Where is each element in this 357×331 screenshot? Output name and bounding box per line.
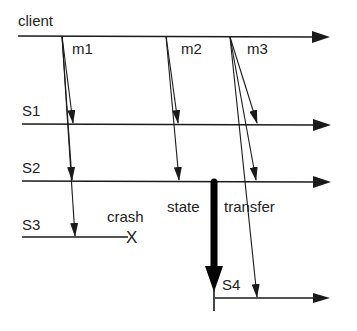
message-label-m2: m2 xyxy=(181,41,202,56)
diagram-canvas: client S1 S2 S3 S4 m1 m2 m3 crash X stat… xyxy=(0,0,357,331)
state-transfer-label-right: transfer xyxy=(224,199,275,214)
process-label-client: client xyxy=(18,13,53,28)
message-m3-arrows xyxy=(230,37,257,297)
diagram-lines xyxy=(0,0,357,331)
message-m1-arrows xyxy=(62,36,75,236)
message-label-m3: m3 xyxy=(247,41,268,56)
message-label-m1: m1 xyxy=(72,41,93,56)
timeline-s2 xyxy=(22,176,331,188)
process-label-s3: S3 xyxy=(22,217,40,232)
message-m2-arrows xyxy=(166,36,179,180)
crash-x-marker: X xyxy=(126,229,137,246)
crash-label: crash xyxy=(107,209,144,224)
state-transfer-label-left: state xyxy=(167,199,200,214)
process-label-s2: S2 xyxy=(22,160,40,175)
timeline-client xyxy=(18,31,330,43)
timeline-s4 xyxy=(215,293,330,303)
process-label-s4: S4 xyxy=(222,277,240,292)
process-label-s1: S1 xyxy=(22,103,40,118)
state-transfer-arrow xyxy=(205,182,223,311)
